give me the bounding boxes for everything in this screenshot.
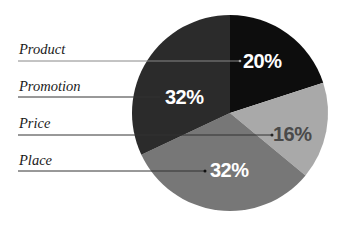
label-place: Place [18,152,53,168]
label-price: Price [18,115,51,131]
leader-dot-place [204,170,207,173]
label-product: Product [18,41,66,57]
leader-dot-product [239,60,242,63]
pct-place: 32% [210,159,249,181]
pct-price: 16% [273,123,312,145]
pie-slices [132,15,328,211]
pct-product: 20% [243,50,282,72]
pct-promotion: 32% [165,86,204,108]
pie-chart: Product Promotion Price Place 20% 32% 16… [0,0,342,229]
label-promotion: Promotion [18,78,81,94]
